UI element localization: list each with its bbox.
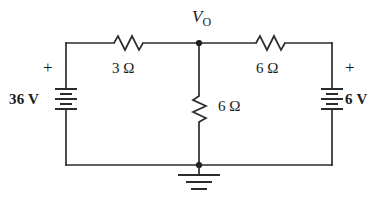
polarity-plus-left: +: [43, 59, 53, 76]
source-right-value-label: 6 V: [345, 92, 367, 107]
resistor-middle-symbol: [193, 96, 206, 122]
node-voltage-symbol: V: [192, 7, 202, 26]
resistor-top-left-label: 3 Ω: [112, 61, 134, 76]
node-dot-top-center: [196, 40, 202, 46]
node-voltage-subscript: O: [202, 15, 211, 29]
resistor-top-right-label: 6 Ω: [256, 61, 278, 76]
source-left-value-label: 36 V: [9, 92, 39, 107]
polarity-plus-right: +: [345, 59, 355, 76]
node-voltage-label: VO: [192, 8, 211, 28]
circuit-diagram-figure: VO 3 Ω 6 Ω 6 Ω + 36 V + 6 V: [0, 0, 389, 203]
circuit-schematic-canvas: [0, 0, 389, 203]
resistor-top-right-symbol: [256, 36, 285, 50]
resistor-top-left-symbol: [114, 36, 143, 50]
resistor-middle-label: 6 Ω: [218, 99, 240, 114]
